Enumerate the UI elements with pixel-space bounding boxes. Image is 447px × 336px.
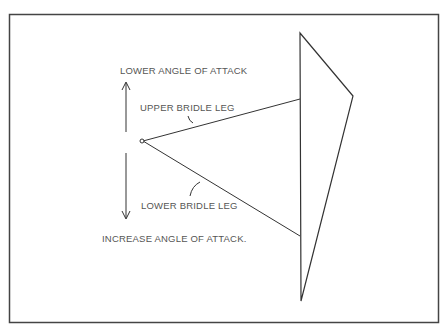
frame-border — [10, 15, 439, 323]
upper-leg-leader — [188, 116, 193, 123]
bridle-tow-point — [140, 139, 144, 143]
increase-angle-label: INCREASE ANGLE OF ATTACK. — [102, 233, 247, 244]
kite-profile — [300, 33, 353, 301]
kite-bridle-diagram — [0, 0, 447, 336]
lower-bridle-leg-label: LOWER BRIDLE LEG — [141, 200, 238, 211]
upper-bridle-leg-label: UPPER BRIDLE LEG — [140, 102, 235, 113]
lower-bridle-leg-line — [143, 141, 300, 236]
lower-angle-label: LOWER ANGLE OF ATTACK — [120, 65, 247, 76]
lower-leg-leader — [190, 182, 200, 196]
up-arrow-icon — [122, 82, 130, 132]
down-arrow-icon — [122, 153, 130, 219]
